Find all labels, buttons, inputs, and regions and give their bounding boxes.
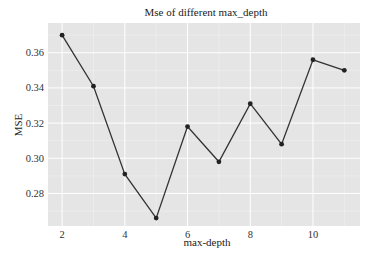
x-tick-label: 8 xyxy=(248,229,253,240)
x-axis-label: max-depth xyxy=(183,236,231,248)
y-tick-label: 0.30 xyxy=(26,153,44,164)
y-axis-ticks: 0.280.300.320.340.36 xyxy=(26,47,45,199)
y-axis-label: MSE xyxy=(12,113,24,136)
line-chart: Mse of different max_depth 0.280.300.320… xyxy=(0,0,374,264)
x-tick-label: 4 xyxy=(122,229,128,240)
data-point xyxy=(91,84,96,89)
data-point xyxy=(185,124,190,129)
y-tick-label: 0.34 xyxy=(26,82,45,93)
y-tick-label: 0.32 xyxy=(26,118,44,129)
x-tick-label: 10 xyxy=(308,229,319,240)
data-point xyxy=(154,216,159,221)
x-tick-label: 2 xyxy=(59,229,64,240)
data-point xyxy=(122,172,127,177)
data-point xyxy=(216,159,221,164)
chart-title: Mse of different max_depth xyxy=(145,6,268,18)
data-point xyxy=(248,101,253,106)
data-point xyxy=(342,68,347,73)
data-point xyxy=(60,33,65,38)
data-point xyxy=(279,142,284,147)
y-tick-label: 0.36 xyxy=(26,47,44,58)
data-point xyxy=(311,57,316,62)
y-tick-label: 0.28 xyxy=(26,188,44,199)
